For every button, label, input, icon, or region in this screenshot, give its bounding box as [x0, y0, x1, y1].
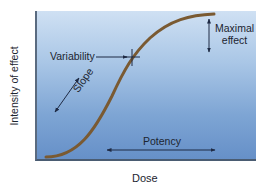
maximal-effect-line2: effect [215, 35, 254, 47]
x-axis-label: Dose [132, 172, 158, 184]
maximal-effect-label: Maximal effect [215, 23, 254, 46]
potency-label: Potency [143, 136, 181, 148]
variability-label: Variability [50, 51, 95, 63]
maximal-effect-line1: Maximal [215, 23, 254, 35]
y-axis-label: Intensity of effect [8, 46, 20, 125]
